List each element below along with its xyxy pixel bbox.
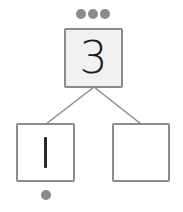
dot-icon xyxy=(100,9,110,19)
part-left-value-one xyxy=(44,137,47,168)
dot-icon xyxy=(88,9,98,19)
part-box-right[interactable] xyxy=(112,123,170,182)
part-left-dot-icon xyxy=(41,190,51,200)
part-box-left xyxy=(16,123,75,182)
dot-icon xyxy=(76,9,86,19)
whole-value: 3 xyxy=(80,36,108,80)
whole-box: 3 xyxy=(64,28,123,88)
